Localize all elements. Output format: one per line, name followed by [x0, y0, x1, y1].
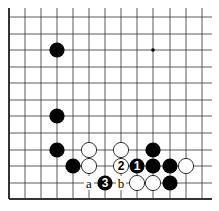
move-number: 3: [102, 176, 109, 190]
star-point: [151, 48, 155, 52]
black-stone: [162, 158, 177, 173]
white-stone-disc: [145, 175, 160, 190]
white-stone: [145, 175, 160, 190]
white-stone: [129, 175, 144, 190]
black-stone-disc: [65, 158, 80, 173]
move-number: 2: [118, 159, 125, 173]
black-stone-disc: [162, 175, 177, 190]
white-stone-disc: [113, 142, 128, 157]
black-stone: [162, 175, 177, 190]
go-board-diagram: ab 213: [0, 0, 219, 211]
black-stone-disc: [49, 142, 64, 157]
black-stone-disc: [162, 158, 177, 173]
black-stone-disc: [49, 108, 64, 123]
black-stone: [49, 142, 64, 157]
black-stone-disc: [145, 158, 160, 173]
mark-label-a: a: [86, 176, 92, 191]
stones: 213: [49, 42, 193, 190]
white-stone: [178, 158, 193, 173]
black-stone-disc: [145, 142, 160, 157]
white-stone-disc: [81, 142, 96, 157]
white-stone: [81, 158, 96, 173]
move-number: 1: [134, 159, 141, 173]
white-stone-disc: [129, 175, 144, 190]
black-stone: [65, 158, 80, 173]
white-stone-disc: [81, 158, 96, 173]
white-stone: [81, 142, 96, 157]
black-stone: 1: [129, 158, 144, 173]
black-stone: [145, 158, 160, 173]
white-stone: [113, 142, 128, 157]
mark-label-b: b: [118, 176, 125, 191]
black-stone: [49, 42, 64, 57]
black-stone: 3: [97, 175, 112, 190]
white-stone: 2: [113, 158, 128, 173]
white-stone-disc: [178, 158, 193, 173]
black-stone: [145, 142, 160, 157]
black-stone: [49, 108, 64, 123]
star-points: [151, 48, 155, 52]
black-stone-disc: [49, 42, 64, 57]
